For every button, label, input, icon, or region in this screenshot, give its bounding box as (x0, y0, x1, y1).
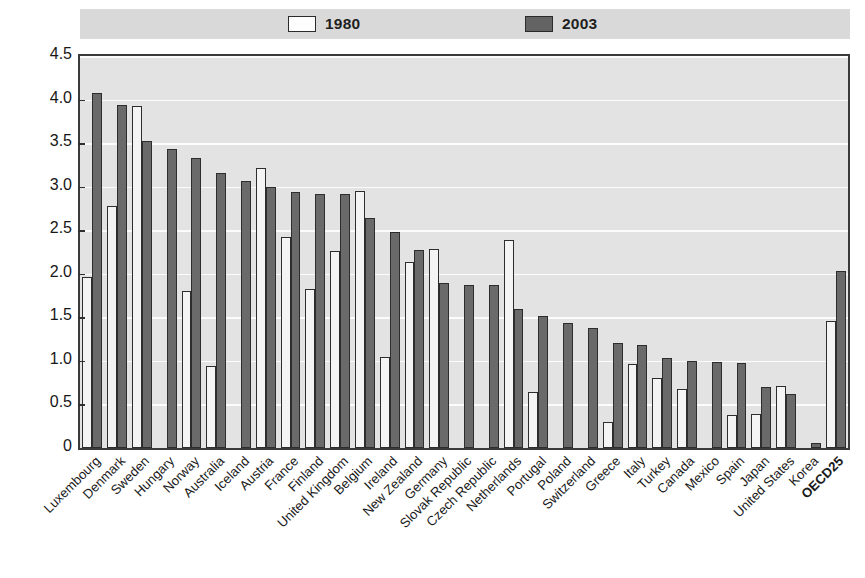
y-tick-mark (78, 404, 85, 406)
y-tick-mark (78, 100, 85, 102)
y-tick-mark (78, 230, 85, 232)
y-tick-mark (78, 187, 85, 189)
bar-group (798, 56, 823, 448)
bar-group (105, 56, 130, 448)
y-tick-mark (78, 361, 85, 363)
bar-2003 (414, 250, 424, 448)
bar-group (253, 56, 278, 448)
bar-1980 (429, 249, 439, 448)
bar-group (575, 56, 600, 448)
bar-group (625, 56, 650, 448)
bar-group (229, 56, 254, 448)
bar-2003 (340, 194, 350, 448)
bar-1980 (132, 106, 142, 448)
bar-group (328, 56, 353, 448)
legend-swatch-2003-icon (525, 16, 553, 32)
y-tick-label: 4.0 (26, 89, 72, 107)
bar-2003 (365, 218, 375, 448)
bar-1980 (256, 168, 266, 448)
bar-group (303, 56, 328, 448)
bar-group (774, 56, 799, 448)
bar-2003 (117, 105, 127, 448)
bar-group (278, 56, 303, 448)
bar-group (600, 56, 625, 448)
bar-2003 (167, 149, 177, 448)
bar-group (80, 56, 105, 448)
y-tick-label: 4.5 (26, 45, 72, 63)
bar-1980 (107, 206, 117, 448)
bar-2003 (266, 187, 276, 448)
legend-swatch-1980-icon (288, 16, 316, 32)
bar-group (154, 56, 179, 448)
bars-layer (80, 56, 848, 448)
legend-label-2003: 2003 (562, 16, 597, 32)
bar-2003 (315, 194, 325, 448)
bar-2003 (216, 173, 226, 448)
chart-legend: 1980 2003 (80, 9, 850, 39)
bar-1980 (330, 251, 340, 448)
y-tick-label: 0 (26, 437, 72, 455)
bar-1980 (281, 237, 291, 448)
legend-label-1980: 1980 (325, 16, 360, 32)
y-tick-label: 0.5 (26, 393, 72, 411)
bar-2003 (291, 192, 301, 448)
bar-group (724, 56, 749, 448)
bar-group (452, 56, 477, 448)
bar-group (501, 56, 526, 448)
y-tick-label: 1.5 (26, 306, 72, 324)
y-tick-mark (78, 274, 85, 276)
bar-group (699, 56, 724, 448)
bar-group (749, 56, 774, 448)
y-tick-label: 2.0 (26, 263, 72, 281)
bar-group (476, 56, 501, 448)
y-tick-mark (78, 317, 85, 319)
bar-2003 (92, 93, 102, 448)
chart-figure: 1980 2003 00.51.01.52.02.53.03.54.04.5 L… (0, 0, 865, 578)
bar-1980 (305, 289, 315, 448)
bar-group (353, 56, 378, 448)
bar-1980 (405, 262, 415, 448)
bar-group (377, 56, 402, 448)
bar-1980 (355, 191, 365, 448)
bar-group (130, 56, 155, 448)
y-axis: 00.51.01.52.02.53.03.54.04.5 (20, 54, 72, 450)
plot-area (78, 54, 850, 450)
y-tick-label: 2.5 (26, 219, 72, 237)
bar-2003 (191, 158, 201, 448)
bar-group (675, 56, 700, 448)
y-tick-mark (78, 143, 85, 145)
bar-group (823, 56, 848, 448)
legend-item-2003: 2003 (525, 14, 597, 34)
bar-group (650, 56, 675, 448)
bar-group (204, 56, 229, 448)
legend-item-1980: 1980 (288, 14, 360, 34)
bar-2003 (662, 358, 672, 448)
bar-1980 (82, 277, 92, 448)
y-tick-label: 1.0 (26, 350, 72, 368)
bar-group (427, 56, 452, 448)
bar-2003 (241, 181, 251, 448)
x-axis-labels: LuxembourgDenmarkSwedenHungaryNorwayAust… (78, 452, 850, 578)
y-tick-label: 3.5 (26, 132, 72, 150)
bar-group (179, 56, 204, 448)
y-tick-label: 3.0 (26, 176, 72, 194)
